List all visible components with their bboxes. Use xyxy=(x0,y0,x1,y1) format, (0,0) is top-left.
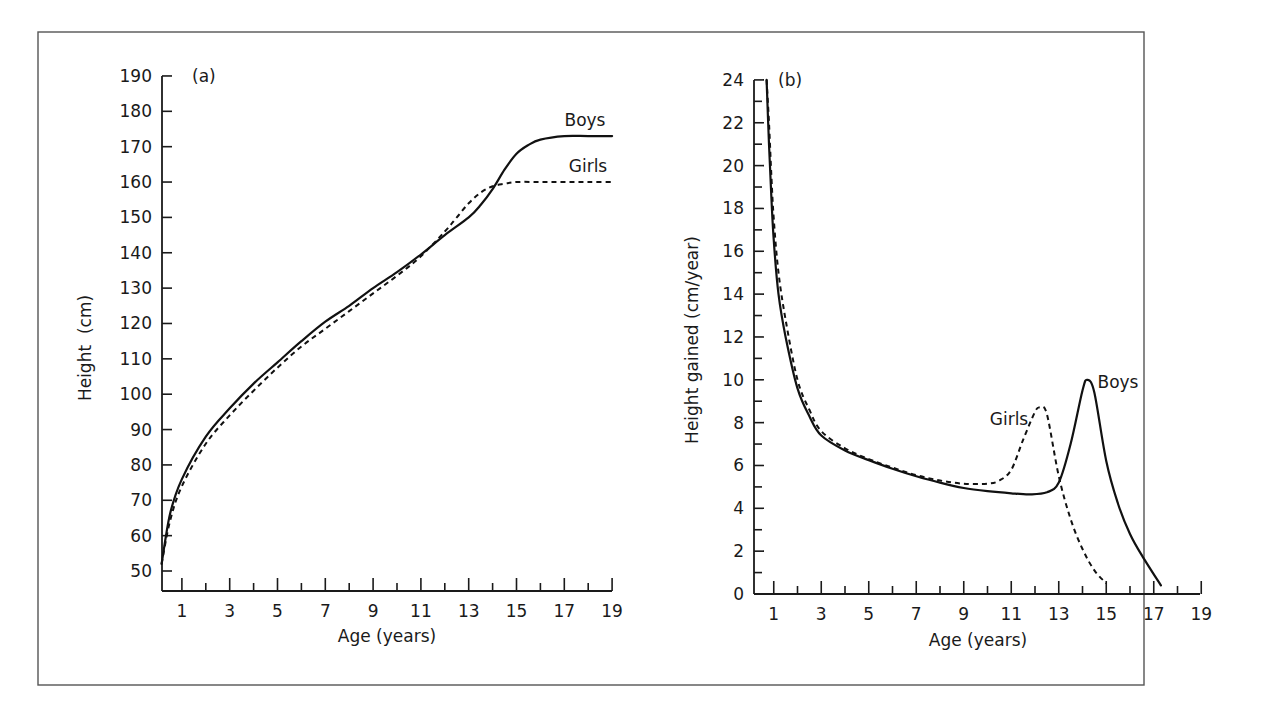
y-tick-label: 100 xyxy=(120,384,152,404)
panel-a-boys-label: Boys xyxy=(565,110,606,130)
y-tick-label: 10 xyxy=(722,370,744,390)
panel-b-x-axis-title: Age (years) xyxy=(929,630,1027,650)
panel-a-label: (a) xyxy=(192,66,216,86)
y-tick-label: 110 xyxy=(120,349,152,369)
y-tick-label: 140 xyxy=(120,243,152,263)
growth-chart-figure: 5060708090100110120130140150160170180190… xyxy=(0,0,1268,719)
y-tick-label: 4 xyxy=(733,498,744,518)
x-tick-label: 9 xyxy=(368,601,379,621)
y-tick-label: 70 xyxy=(130,490,152,510)
y-tick-label: 150 xyxy=(120,207,152,227)
panel-b-y-ticks: 024681012141618202224 xyxy=(722,70,764,604)
y-tick-label: 60 xyxy=(130,526,152,546)
x-tick-label: 11 xyxy=(410,601,432,621)
panel-a-girls-label: Girls xyxy=(569,156,608,176)
x-tick-label: 9 xyxy=(958,604,969,624)
panel-a-height-chart: 5060708090100110120130140150160170180190… xyxy=(75,66,623,646)
y-tick-label: 0 xyxy=(733,584,744,604)
panel-b-label: (b) xyxy=(778,70,802,90)
panel-a-x-axis-title: Age (years) xyxy=(338,626,436,646)
x-tick-label: 17 xyxy=(553,601,575,621)
x-tick-label: 3 xyxy=(224,601,235,621)
y-tick-label: 18 xyxy=(722,198,744,218)
panel-a-y-ticks: 5060708090100110120130140150160170180190 xyxy=(120,66,172,581)
panel-b-y-axis-title: Height gained (cm/year) xyxy=(682,236,702,444)
panel-a-boys-line xyxy=(162,136,612,564)
y-tick-label: 180 xyxy=(120,101,152,121)
y-tick-label: 190 xyxy=(120,66,152,86)
x-tick-label: 7 xyxy=(911,604,922,624)
y-tick-label: 90 xyxy=(130,420,152,440)
panel-a-x-ticks: 135791113151719 xyxy=(176,578,622,621)
panel-b-boys-line xyxy=(767,80,1161,586)
y-tick-label: 8 xyxy=(733,413,744,433)
x-tick-label: 1 xyxy=(768,604,779,624)
panel-a-girls-line xyxy=(162,182,612,564)
x-tick-label: 7 xyxy=(320,601,331,621)
y-tick-label: 12 xyxy=(722,327,744,347)
x-tick-label: 11 xyxy=(1000,604,1022,624)
y-tick-label: 14 xyxy=(722,284,744,304)
y-tick-label: 16 xyxy=(722,241,744,261)
x-tick-label: 19 xyxy=(601,601,623,621)
y-tick-label: 80 xyxy=(130,455,152,475)
y-tick-label: 2 xyxy=(733,541,744,561)
panel-b-x-ticks: 135791113151719 xyxy=(768,581,1212,624)
x-tick-label: 15 xyxy=(506,601,528,621)
y-tick-label: 50 xyxy=(130,561,152,581)
x-tick-label: 5 xyxy=(272,601,283,621)
y-tick-label: 130 xyxy=(120,278,152,298)
x-tick-label: 17 xyxy=(1143,604,1165,624)
x-tick-label: 1 xyxy=(176,601,187,621)
panel-a-y-axis-title: Height (cm) xyxy=(75,295,95,401)
x-tick-label: 19 xyxy=(1190,604,1212,624)
panel-b-girls-line xyxy=(767,80,1107,583)
y-tick-label: 170 xyxy=(120,137,152,157)
y-tick-label: 120 xyxy=(120,313,152,333)
y-tick-label: 20 xyxy=(722,156,744,176)
panel-b-girls-label: Girls xyxy=(990,409,1029,429)
panel-b-velocity-chart: 024681012141618202224 135791113151719 (b… xyxy=(682,70,1212,650)
y-tick-label: 6 xyxy=(733,455,744,475)
x-tick-label: 15 xyxy=(1095,604,1117,624)
y-tick-label: 22 xyxy=(722,113,744,133)
panel-b-boys-label: Boys xyxy=(1098,372,1139,392)
x-tick-label: 3 xyxy=(816,604,827,624)
x-tick-label: 13 xyxy=(1048,604,1070,624)
y-tick-label: 160 xyxy=(120,172,152,192)
x-tick-label: 5 xyxy=(863,604,874,624)
x-tick-label: 13 xyxy=(458,601,480,621)
y-tick-label: 24 xyxy=(722,70,744,90)
